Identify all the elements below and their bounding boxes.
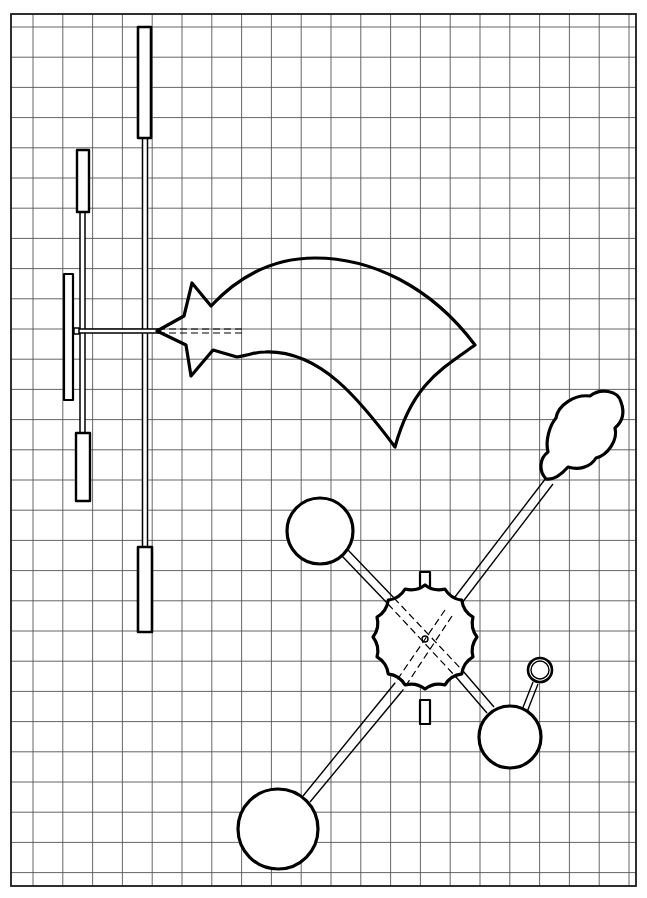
right-hanging-mobile	[238, 391, 623, 869]
horizontal-cross-rod	[74, 329, 158, 333]
upper-left-circle	[287, 498, 353, 564]
arm-to-upper-left-circle	[342, 550, 394, 604]
main-bottom-bar	[138, 547, 152, 632]
secondary-vertical-rod	[80, 212, 85, 433]
secondary-top-bar	[77, 150, 89, 212]
shooting-star	[157, 258, 475, 447]
arm-to-lower-right-circle	[456, 671, 494, 713]
mobile-plan-diagram	[0, 0, 647, 898]
main-vertical-rod	[143, 138, 148, 548]
main-top-bar	[138, 27, 151, 138]
arm-to-lower-left-circle	[303, 683, 403, 802]
cloud-shape	[541, 391, 623, 479]
stem-to-small-ring	[522, 682, 538, 712]
lower-right-circle	[479, 706, 541, 768]
scalloped-sun-hub	[373, 585, 477, 689]
far-left-bar	[64, 274, 73, 400]
arm-to-cloud	[445, 478, 553, 616]
grid-paper	[11, 14, 636, 886]
lower-left-circle	[238, 789, 318, 869]
cross-rod-end-cap	[74, 328, 79, 334]
secondary-bottom-bar	[76, 433, 90, 501]
shooting-star-outline	[157, 258, 475, 447]
dashed-rod-extension	[158, 329, 242, 333]
hub-bottom-tab	[420, 700, 430, 724]
